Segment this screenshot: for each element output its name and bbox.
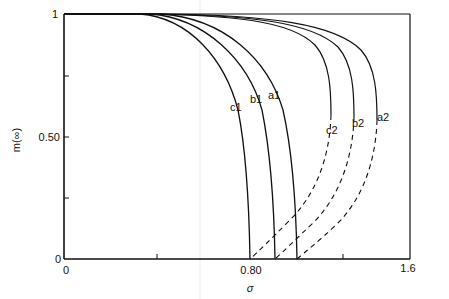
dashed-curves-2: [250, 115, 377, 259]
curve-c1: [64, 14, 250, 259]
plot-frame: [64, 14, 410, 259]
label-b1: b1: [250, 93, 262, 105]
label-b2: b2: [352, 117, 364, 129]
curve-a1: [64, 14, 297, 259]
label-a1: a1: [268, 89, 280, 101]
chart: 1 0.50 0 0 0.80 1.6 σ m(∞) c1 b1 a1 c2 b…: [0, 0, 449, 299]
axis-ticks: [64, 76, 343, 259]
curve-b2-dashed: [275, 117, 354, 259]
label-a2: a2: [377, 111, 389, 123]
y-tick-label-0.50: 0.50: [39, 131, 60, 143]
y-tick-label-1: 1: [52, 8, 58, 20]
curve-c2-dashed: [250, 115, 331, 259]
x-axis-label: σ: [247, 282, 254, 294]
curve-a2-solid: [160, 14, 377, 120]
y-tick-label-0: 0: [55, 253, 61, 265]
x-tick-label-0.80: 0.80: [240, 264, 261, 276]
solid-curves-1: [64, 14, 297, 259]
y-axis-label: m(∞): [10, 128, 22, 152]
x-tick-label-0: 0: [63, 264, 69, 276]
x-tick-label-1.6: 1.6: [400, 262, 415, 274]
label-c1: c1: [230, 101, 242, 113]
curve-b1: [64, 14, 275, 259]
label-c2: c2: [326, 124, 338, 136]
